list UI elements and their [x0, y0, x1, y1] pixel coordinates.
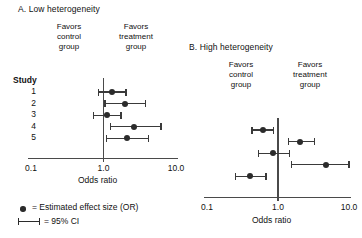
legend-point-icon — [20, 206, 26, 212]
legend-point-label: = Estimated effect size (OR) — [32, 202, 138, 212]
legend-ci-cap-right — [39, 218, 40, 225]
legend-ci-label: = 95% CI — [44, 216, 79, 226]
legend-ci-cap-left — [18, 218, 19, 225]
legend-ci-icon — [18, 221, 40, 222]
